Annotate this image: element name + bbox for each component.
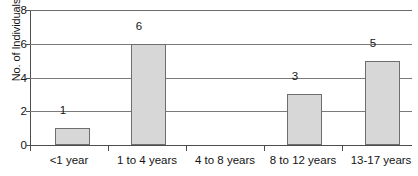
y-tick-label-2: 2 [5,106,27,117]
x-tickmark-3 [264,146,265,151]
x-category-label-13-17-years: 13-17 years [345,154,417,167]
y-tick-label-4: 4 [5,73,27,84]
x-tickmark-4 [342,146,343,151]
bar-chart: No. of Individuals 8 6 4 2 0 1 6 3 5 [0,0,418,176]
bar-13-17-years [365,61,400,145]
gridline-4 [30,78,412,79]
gridline-2 [30,111,412,112]
x-tickmark-1 [108,146,109,151]
bar-value-label-13-17-years: 5 [350,37,396,49]
bar-value-label-lt-1-year: 1 [40,104,86,116]
x-axis-line [30,145,412,146]
x-category-label-lt-1-year: <1 year [33,154,105,167]
x-tickmark-2 [186,146,187,151]
bar-value-label-1-to-4-years: 6 [116,20,162,32]
y-tick-label-8: 8 [5,5,27,16]
bar-value-label-8-to-12-years: 3 [272,70,318,82]
x-category-label-8-to-12-years: 8 to 12 years [267,154,339,167]
bar-lt-1-year [55,128,90,145]
y-tick-label-6: 6 [5,39,27,50]
y-tick-label-0: 0 [5,140,27,151]
bar-8-to-12-years [287,94,322,145]
plot-area [30,10,412,145]
x-tickmark-0 [30,146,31,151]
x-category-label-1-to-4-years: 1 to 4 years [111,154,183,167]
bar-1-to-4-years [131,44,166,145]
y-axis-tick-labels: 8 6 4 2 0 [0,0,27,176]
x-category-label-4-to-8-years: 4 to 8 years [189,154,261,167]
gridline-8 [30,10,412,11]
